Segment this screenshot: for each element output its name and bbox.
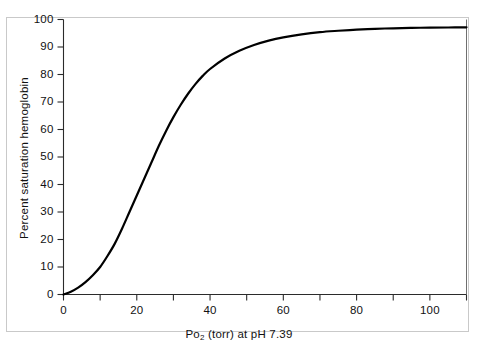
x-tick-label: 20: [117, 304, 157, 316]
plot-area: [0, 0, 478, 352]
y-tick-label: 0: [14, 288, 54, 300]
y-axis-title: Percent saturation hemoglobin: [18, 58, 30, 258]
x-axis-tick-marks: [64, 295, 467, 301]
x-tick-label: 0: [44, 304, 84, 316]
axis-lines: [64, 20, 467, 295]
figure-container: 0102030405060708090100 020406080100 Po2 …: [0, 0, 478, 352]
y-tick-label: 100: [14, 13, 54, 25]
y-tick-label: 10: [14, 260, 54, 272]
x-title-subscript: 2: [200, 333, 205, 342]
x-tick-label: 100: [410, 304, 450, 316]
x-tick-label: 60: [263, 304, 303, 316]
data-curve-oxygen-dissociation: [64, 27, 467, 294]
x-tick-label: 40: [190, 304, 230, 316]
x-tick-label: 80: [337, 304, 377, 316]
y-axis-tick-marks: [58, 20, 64, 295]
y-tick-label: 90: [14, 40, 54, 52]
x-axis-title: Po2 (torr) at pH 7.39: [0, 328, 478, 340]
